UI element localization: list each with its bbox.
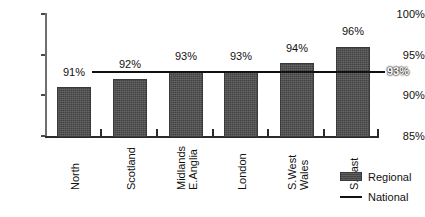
category-label-line: S.West — [287, 155, 299, 190]
x-axis-tick-mark-1 — [100, 129, 102, 138]
y-axis-tick-label-100: 100% — [385, 8, 425, 20]
y-axis-tick-label-95: 95% — [385, 49, 425, 61]
x-axis-tick-mark-6 — [377, 129, 379, 138]
legend-bar-swatch-icon — [340, 172, 362, 181]
bar-swest-wales — [280, 63, 314, 137]
bar-value-london: 93% — [224, 50, 258, 62]
legend-label-national: National — [368, 191, 408, 203]
legend-label-regional: Regional — [368, 171, 411, 183]
category-label-line: London — [237, 153, 249, 190]
chart-legend: Regional National — [340, 168, 411, 208]
bar-value-swest-wales: 94% — [280, 42, 314, 54]
category-label-line: Midlands — [176, 146, 188, 190]
legend-item-national: National — [340, 188, 411, 205]
bar-london — [224, 71, 258, 137]
y-axis-line — [45, 13, 47, 137]
bar-midlands-eanglia — [169, 71, 203, 137]
x-axis-tick-mark-2 — [156, 129, 158, 138]
category-label-line: E.Anglia — [188, 146, 200, 190]
national-reference-line — [92, 71, 385, 73]
bar-value-north: 91% — [57, 66, 91, 78]
y-axis-tick-label-85: 85% — [385, 130, 425, 142]
category-label-line: Wales — [299, 155, 311, 190]
bar-value-scotland: 92% — [113, 58, 147, 70]
bar-north — [57, 87, 91, 137]
x-axis-category-label-north: North — [70, 163, 82, 190]
category-label-line: Scotland — [126, 147, 138, 190]
legend-line-swatch-icon — [340, 192, 362, 201]
bar-seast — [336, 47, 370, 137]
y-axis-tick-label-90: 90% — [385, 89, 425, 101]
x-axis-tick-mark-3 — [212, 129, 214, 138]
legend-item-regional: Regional — [340, 168, 411, 185]
x-axis-tick-mark-5 — [323, 129, 325, 138]
x-axis-category-label-scotland: Scotland — [126, 147, 138, 190]
bar-scotland — [113, 79, 147, 137]
national-reference-value-label: 93% — [387, 65, 409, 77]
category-label-line: North — [70, 163, 82, 190]
x-axis-category-label-midlands-eanglia: Midlands E.Anglia — [176, 146, 199, 190]
bar-value-midlands-eanglia: 93% — [169, 50, 203, 62]
x-axis-category-label-london: London — [237, 153, 249, 190]
bar-value-seast: 96% — [336, 25, 370, 37]
x-axis-tick-mark-4 — [267, 129, 269, 138]
bar-chart: 100% 95% 90% 85% 91% 92% 93% 93% 94% 96%… — [0, 0, 425, 217]
x-axis-category-label-swest-wales: S.West Wales — [287, 155, 310, 190]
